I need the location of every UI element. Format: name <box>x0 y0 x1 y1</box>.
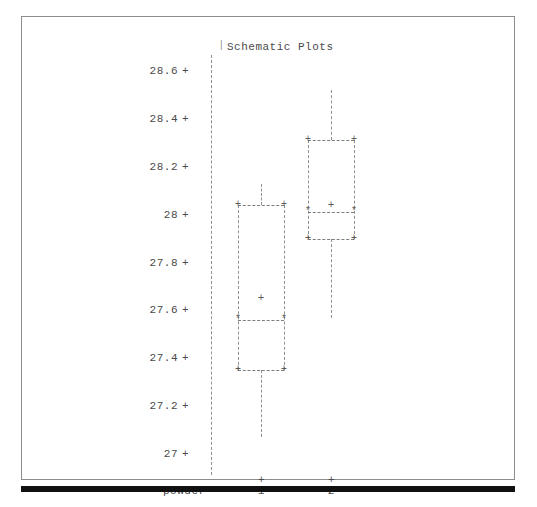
median-end-right: * <box>351 207 357 217</box>
y-axis-tick-label: 27.8+ <box>116 257 178 269</box>
y-axis-tick-label: 28.6+ <box>116 65 178 77</box>
y-tick-value: 28.4 <box>150 113 178 125</box>
page-title: Schematic Plots <box>227 41 334 53</box>
y-tick-value: 27.6 <box>150 304 178 316</box>
box-corner-bottom-left: + <box>235 365 241 375</box>
upper-whisker <box>331 90 332 140</box>
y-axis-tick-label: 28+ <box>116 209 178 221</box>
box-corner-bottom-left: + <box>305 234 311 244</box>
y-tick-glyph: + <box>182 352 189 364</box>
y-tick-value: 27.8 <box>150 257 178 269</box>
y-tick-glyph: + <box>182 161 189 173</box>
box-left-edge <box>308 140 309 238</box>
box-corner-top-left: + <box>305 135 311 145</box>
mean-marker: + <box>258 293 265 304</box>
box-bottom-q1-line <box>238 370 284 371</box>
y-tick-glyph: + <box>182 257 189 269</box>
box-top-q3-line <box>238 205 284 206</box>
y-tick-glyph: + <box>182 304 189 316</box>
median-end-right: * <box>281 315 287 325</box>
y-tick-glyph: + <box>182 113 189 125</box>
median-end-left: * <box>235 315 241 325</box>
box-right-edge <box>354 140 355 238</box>
y-tick-glyph: + <box>182 65 189 77</box>
y-tick-value: 27.2 <box>150 400 178 412</box>
x-axis-line <box>212 479 398 480</box>
box-left-edge <box>238 205 239 370</box>
box-corner-bottom-right: + <box>281 365 287 375</box>
title-tick-glyph: | <box>218 39 225 51</box>
box-bottom-q1-line <box>308 239 354 240</box>
box-corner-bottom-right: + <box>351 234 357 244</box>
box-corner-top-left: + <box>235 200 241 210</box>
median-line <box>238 320 284 321</box>
box-top-q3-line <box>308 140 354 141</box>
y-tick-glyph: + <box>182 400 189 412</box>
y-tick-value: 27.4 <box>150 352 178 364</box>
screenshot-page: | Schematic Plots 28.6+28.4+28.2+28+27.8… <box>0 0 537 507</box>
median-line <box>308 212 354 213</box>
y-tick-value: 27 <box>164 448 178 460</box>
page-edge-bar <box>21 486 515 492</box>
y-axis-tick-label: 27.6+ <box>116 304 178 316</box>
y-axis-tick-label: 28.2+ <box>116 161 178 173</box>
mean-marker: + <box>328 200 335 211</box>
y-axis-tick-label: 27.4+ <box>116 352 178 364</box>
y-axis-line <box>211 55 212 475</box>
y-tick-glyph: + <box>182 209 189 221</box>
y-tick-value: 28.6 <box>150 65 178 77</box>
lower-whisker <box>331 239 332 318</box>
plot-frame: | Schematic Plots 28.6+28.4+28.2+28+27.8… <box>21 16 515 480</box>
y-axis-tick-label: 27.2+ <box>116 400 178 412</box>
upper-whisker <box>261 184 262 206</box>
y-axis-tick-label: 27+ <box>116 448 178 460</box>
box-corner-top-right: + <box>351 135 357 145</box>
y-axis-tick-label: 28.4+ <box>116 113 178 125</box>
median-end-left: * <box>305 207 311 217</box>
box-corner-top-right: + <box>281 200 287 210</box>
lower-whisker <box>261 370 262 437</box>
y-tick-value: 28 <box>164 209 178 221</box>
y-tick-glyph: + <box>182 448 189 460</box>
y-tick-value: 28.2 <box>150 161 178 173</box>
box-right-edge <box>284 205 285 370</box>
